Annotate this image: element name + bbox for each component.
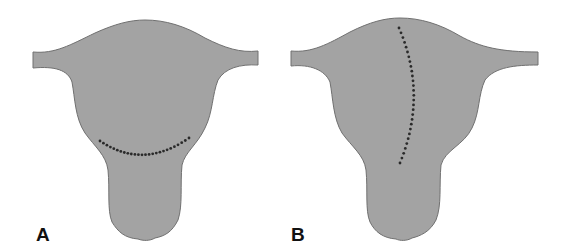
panel-label-b: B	[291, 225, 305, 244]
uterus-shape-b	[291, 18, 538, 240]
panel-a-organ	[33, 20, 258, 240]
uterus-shape-a	[33, 20, 258, 240]
panel-label-a: A	[36, 225, 50, 244]
diagram-canvas	[0, 0, 573, 248]
panel-b-organ	[291, 18, 538, 240]
